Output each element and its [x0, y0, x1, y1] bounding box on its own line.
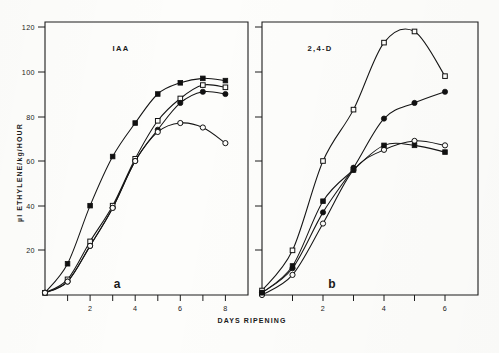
data-point-filled-square [382, 143, 387, 148]
data-point-open-circle [88, 243, 93, 248]
y-tick-label-120: 120 [22, 23, 35, 32]
y-tick-label-100: 100 [22, 68, 35, 77]
data-point-filled-circle [381, 116, 386, 121]
data-point-filled-square [178, 81, 183, 86]
data-point-filled-square [110, 154, 115, 159]
panel-a-treatment-label: IAA [113, 44, 130, 53]
data-point-open-square [443, 74, 448, 79]
data-point-filled-circle [320, 210, 325, 215]
data-point-open-circle [110, 205, 115, 210]
data-point-open-square [155, 119, 160, 124]
y-axis-title: µl ETHYLENE/kg/HOUR [16, 123, 24, 222]
data-point-open-circle [178, 120, 183, 125]
data-point-filled-circle [412, 100, 417, 105]
data-point-filled-circle [223, 91, 228, 96]
data-point-open-square [223, 85, 228, 90]
figure-background [0, 0, 499, 353]
data-point-filled-square [443, 150, 448, 155]
panel-a-x-tick-label-4: 4 [133, 304, 137, 313]
data-point-open-circle [65, 279, 70, 284]
y-tick-label-60: 60 [26, 157, 35, 166]
data-point-open-circle [42, 290, 47, 295]
panel-b-x-tick-label-4: 4 [382, 304, 386, 313]
data-point-filled-square [155, 92, 160, 97]
data-point-open-circle [133, 158, 138, 163]
data-point-open-circle [155, 129, 160, 134]
data-point-filled-circle [200, 89, 205, 94]
data-point-open-square [290, 248, 295, 253]
data-point-filled-square [290, 264, 295, 269]
panel-a-letter: a [114, 277, 121, 291]
data-point-filled-circle [178, 100, 183, 105]
data-point-filled-square [88, 203, 93, 208]
data-point-open-square [201, 83, 206, 88]
panel-a-x-tick-label-6: 6 [178, 304, 182, 313]
data-point-open-circle [442, 143, 447, 148]
panel-a-x-tick-label-8: 8 [223, 304, 227, 313]
figure-canvas: µl ETHYLENE/kg/HOUR 20 40 60 80 100 12 [0, 0, 499, 353]
data-point-filled-square [223, 78, 228, 83]
panel-b-letter: b [328, 277, 335, 291]
y-tick-label-80: 80 [26, 113, 35, 122]
data-point-filled-square [201, 76, 206, 81]
panel-a-x-axis-title: DAYS RIPENING [218, 317, 287, 324]
data-point-filled-square [321, 199, 326, 204]
data-point-open-square [412, 29, 417, 34]
data-point-open-square [351, 107, 356, 112]
y-tick-label-40: 40 [26, 202, 35, 211]
data-point-filled-square [412, 143, 417, 148]
data-point-open-square [321, 159, 326, 164]
data-point-filled-square [133, 121, 138, 126]
ethylene-production-figure: µl ETHYLENE/kg/HOUR 20 40 60 80 100 12 [0, 0, 499, 353]
data-point-open-circle [290, 272, 295, 277]
panel-b-x-tick-label-2: 2 [321, 304, 325, 313]
data-point-filled-square [65, 261, 70, 266]
panel-b-treatment-label: 2,4-D [307, 44, 332, 53]
y-tick-label-20: 20 [26, 246, 35, 255]
data-point-open-circle [223, 141, 228, 146]
panel-a-x-tick-label-2: 2 [88, 304, 92, 313]
data-point-filled-circle [442, 89, 447, 94]
data-point-open-square [382, 40, 387, 45]
panel-b-x-tick-label-6: 6 [443, 304, 447, 313]
data-point-open-circle [200, 125, 205, 130]
data-point-filled-square [351, 168, 356, 173]
y-axis-title-text: µl ETHYLENE/kg/HOUR [16, 123, 24, 222]
data-point-open-circle [320, 221, 325, 226]
data-point-filled-square [260, 290, 265, 295]
